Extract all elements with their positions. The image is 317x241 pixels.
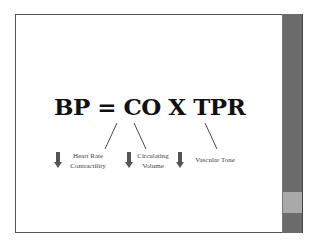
factor-label-line1: Vascular Tone: [189, 155, 241, 165]
connector-line-co-left: [105, 123, 117, 149]
connector-lines: [0, 0, 317, 241]
down-arrow-icon: [176, 152, 184, 168]
factor-label-line1: Circulating: [133, 151, 173, 161]
factor-label-line1: Heart Rate: [66, 151, 110, 161]
factor-heart-rate-contractility: Heart Rate Contractility: [66, 151, 110, 171]
connector-line-tpr: [205, 123, 217, 149]
factor-vascular-tone: Vascular Tone: [189, 155, 241, 165]
factor-label-line2: Volume: [133, 161, 173, 171]
connector-line-co-right: [134, 123, 146, 149]
down-arrow-icon: [54, 152, 62, 168]
factor-label-line2: Contractility: [66, 161, 110, 171]
factor-circulating-volume: Circulating Volume: [133, 151, 173, 171]
down-arrow-icon: [125, 152, 133, 168]
